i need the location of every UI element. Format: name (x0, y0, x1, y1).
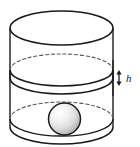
figure-container: h (0, 0, 140, 147)
sphere (49, 103, 81, 135)
height-arrow-head-up (116, 70, 121, 74)
height-label: h (126, 72, 132, 84)
cylinder-top-rim (10, 11, 113, 45)
height-arrow-head-down (116, 82, 121, 86)
height-dimension-arrow (116, 70, 121, 86)
cylinder-sphere-diagram: h (0, 0, 140, 147)
